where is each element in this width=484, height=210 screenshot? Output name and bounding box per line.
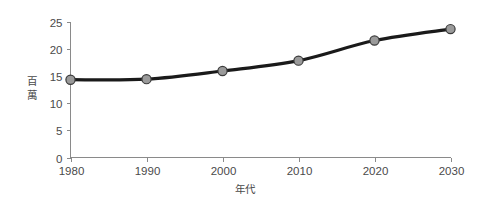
y-tick-label: 20 <box>50 44 63 56</box>
y-tick-label: 10 <box>50 98 63 110</box>
data-point-marker <box>218 66 227 75</box>
data-point-marker <box>142 75 151 84</box>
y-tick-label: 5 <box>56 125 62 137</box>
y-tick-label: 0 <box>56 153 62 165</box>
y-tick-label: 25 <box>50 17 63 29</box>
x-tick-label: 1990 <box>135 165 161 177</box>
y-tick-label: 15 <box>50 71 63 83</box>
x-tick-label: 1980 <box>59 165 85 177</box>
y-axis-title-char-2: 萬 <box>27 89 37 101</box>
line-chart: 0510152025 百 萬 198019902000201020202030 … <box>0 0 484 210</box>
data-point-marker <box>370 36 379 45</box>
chart-canvas: 0510152025 百 萬 198019902000201020202030 … <box>0 0 484 210</box>
x-tick-label: 2030 <box>439 165 465 177</box>
x-tick-label: 2000 <box>211 165 237 177</box>
x-axis-title: 年代 <box>235 183 256 195</box>
data-point-marker <box>66 75 75 84</box>
y-axis-title-char-1: 百 <box>27 75 37 87</box>
chart-background <box>0 0 484 210</box>
x-tick-label: 2010 <box>287 165 313 177</box>
data-point-marker <box>446 25 455 34</box>
x-tick-label: 2020 <box>363 165 389 177</box>
data-point-marker <box>294 56 303 65</box>
